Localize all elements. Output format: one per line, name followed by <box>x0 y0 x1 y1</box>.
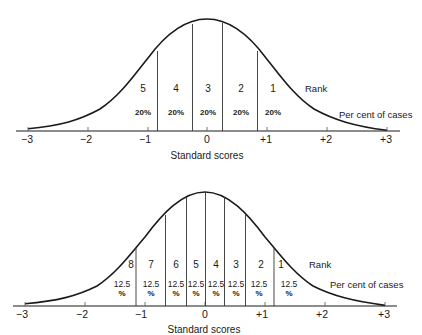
tick-label: −3 <box>21 133 33 145</box>
top-tick-labels: −3 −2 −1 0 +1 +2 +3 <box>21 133 392 145</box>
percent-label: 20% <box>168 108 184 117</box>
bottom-percent-row-label: Per cent of cases <box>330 279 404 290</box>
percent-sign: % <box>232 289 239 298</box>
tick-label: +2 <box>316 308 328 320</box>
percent-value: 12.5 <box>281 279 298 289</box>
percent-sign: % <box>212 289 219 298</box>
normal-curve-diagram: −3 −2 −1 0 +1 +2 +3 Standard scores 5 4 … <box>0 0 422 335</box>
percent-label: 20% <box>265 108 281 117</box>
bottom-tick-labels: −3 −2 −1 0 +1 +2 +3 <box>16 308 390 320</box>
tick-label: −1 <box>135 308 147 320</box>
rank-label: 5 <box>140 83 146 94</box>
tick-label: 0 <box>204 133 210 145</box>
percent-value: 12.5 <box>208 279 225 289</box>
rank-label: 1 <box>270 83 276 94</box>
tick-label: +1 <box>256 308 268 320</box>
bottom-rank-labels: 8 7 6 5 4 3 2 1 <box>128 259 284 270</box>
top-rank-row-label: Rank <box>305 83 327 94</box>
rank-label: 2 <box>238 83 244 94</box>
rank-label: 6 <box>173 259 179 270</box>
top-rank-labels: 5 4 3 2 1 <box>140 83 276 94</box>
rank-label: 3 <box>233 259 239 270</box>
tick-label: −2 <box>80 133 92 145</box>
tick-label: +1 <box>260 133 272 145</box>
percent-label: 20% <box>200 108 216 117</box>
bottom-normal-curve-chart: −3 −2 −1 0 +1 +2 +3 Standard scores 8 7 … <box>13 192 404 335</box>
percent-value: 12.5 <box>143 279 160 289</box>
tick-label: −1 <box>139 133 151 145</box>
top-axis-title: Standard scores <box>171 150 244 161</box>
percent-value: 12.5 <box>168 279 185 289</box>
percent-sign: % <box>255 289 262 298</box>
rank-label: 8 <box>128 259 134 270</box>
rank-label: 1 <box>278 259 284 270</box>
rank-label: 5 <box>193 259 199 270</box>
percent-label: 20% <box>233 108 249 117</box>
percent-value: 12.5 <box>114 279 131 289</box>
top-normal-curve-chart: −3 −2 −1 0 +1 +2 +3 Standard scores 5 4 … <box>16 19 413 161</box>
percent-sign: % <box>172 289 179 298</box>
rank-label: 2 <box>258 259 264 270</box>
percent-label: 20% <box>135 108 151 117</box>
percent-sign: % <box>192 289 199 298</box>
rank-label: 4 <box>173 83 179 94</box>
rank-label: 4 <box>213 259 219 270</box>
percent-sign: % <box>118 289 125 298</box>
percent-sign: % <box>147 289 154 298</box>
rank-label: 3 <box>205 83 211 94</box>
tick-label: −3 <box>16 308 28 320</box>
tick-label: +3 <box>380 133 392 145</box>
top-percent-row-label: Per cent of cases <box>339 109 413 120</box>
percent-value: 12.5 <box>251 279 268 289</box>
tick-label: −2 <box>76 308 88 320</box>
rank-label: 7 <box>148 259 154 270</box>
bottom-axis-title: Standard scores <box>168 324 241 335</box>
tick-label: +3 <box>378 308 390 320</box>
percent-value: 12.5 <box>228 279 245 289</box>
bottom-ticks <box>25 302 385 306</box>
top-percent-labels: 20% 20% 20% 20% 20% <box>135 108 281 117</box>
tick-label: 0 <box>202 308 208 320</box>
tick-label: +2 <box>320 133 332 145</box>
bottom-rank-row-label: Rank <box>309 259 331 270</box>
top-ticks <box>28 127 387 131</box>
percent-value: 12.5 <box>188 279 205 289</box>
percent-sign: % <box>285 289 292 298</box>
